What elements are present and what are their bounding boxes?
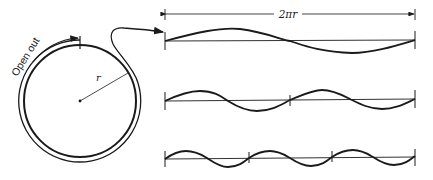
circle-group: r Open out: [9, 28, 163, 162]
radius-line: [80, 73, 128, 101]
open-out-label: Open out: [9, 35, 42, 78]
wave-row-1: [165, 29, 415, 53]
dimension-2pir: 2πr: [165, 8, 415, 20]
wave-row-3: [165, 149, 415, 167]
dimension-label: 2πr: [278, 8, 299, 20]
radius-label: r: [96, 72, 102, 83]
wave-row-2: [165, 90, 415, 111]
diagram-canvas: r Open out 2πr: [0, 0, 433, 180]
